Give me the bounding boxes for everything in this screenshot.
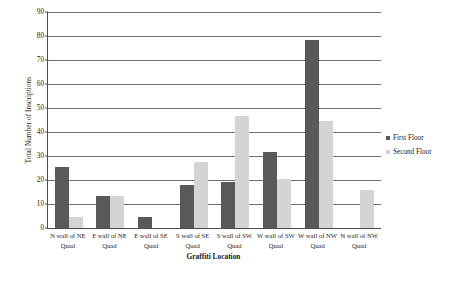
x-axis-tick-label: W wall of SWQuad bbox=[255, 231, 297, 250]
x-axis-title: Graffiti Location bbox=[47, 252, 380, 261]
bars-layer bbox=[48, 12, 381, 228]
y-axis-title: Total Number of Inscriptions bbox=[22, 12, 36, 228]
legend-item[interactable]: Second Floor bbox=[386, 145, 448, 159]
bar-group bbox=[90, 12, 132, 228]
legend-label: First Floor bbox=[393, 134, 424, 142]
x-axis-tick-label: N wall of NWQuad bbox=[338, 231, 380, 250]
x-axis-tick-label: N wall of NEQuad bbox=[47, 231, 89, 250]
bar-group bbox=[48, 12, 90, 228]
plot-area: 0102030405060708090 bbox=[47, 12, 381, 229]
bar[interactable] bbox=[55, 167, 69, 228]
bar-group bbox=[339, 12, 381, 228]
y-axis-tick-label: 70 bbox=[37, 56, 44, 64]
bar[interactable] bbox=[110, 196, 124, 228]
bar[interactable] bbox=[277, 179, 291, 228]
y-axis-tick-label: 50 bbox=[37, 104, 44, 112]
y-axis-tick-label: 10 bbox=[37, 200, 44, 208]
bar[interactable] bbox=[319, 121, 333, 228]
x-axis-tick-labels: N wall of NEQuadE wall of NEQuadE wall o… bbox=[47, 231, 380, 250]
y-axis-tick-label: 0 bbox=[40, 224, 44, 232]
bar[interactable] bbox=[221, 182, 235, 228]
bar[interactable] bbox=[96, 196, 110, 228]
x-axis-tick-label: S wall of SWQuad bbox=[214, 231, 256, 250]
bar[interactable] bbox=[69, 217, 83, 228]
x-axis-tick-label: E wall of NEQuad bbox=[89, 231, 131, 250]
bar[interactable] bbox=[263, 152, 277, 228]
bar[interactable] bbox=[138, 217, 152, 228]
legend-item[interactable]: First Floor bbox=[386, 131, 448, 145]
bar-chart: Total Number of Inscriptions 01020304050… bbox=[0, 0, 450, 286]
bar-group bbox=[131, 12, 173, 228]
bar[interactable] bbox=[360, 190, 374, 228]
bar-group bbox=[215, 12, 257, 228]
y-axis-tick-label: 60 bbox=[37, 80, 44, 88]
bar[interactable] bbox=[180, 185, 194, 228]
bar[interactable] bbox=[194, 162, 208, 228]
x-axis-tick-label: E wall of SEQuad bbox=[130, 231, 172, 250]
bar-group bbox=[173, 12, 215, 228]
y-axis-tick-label: 40 bbox=[37, 128, 44, 136]
legend-swatch-icon bbox=[386, 150, 390, 154]
bar-group bbox=[298, 12, 340, 228]
legend-swatch-icon bbox=[386, 136, 390, 140]
legend-label: Second Floor bbox=[393, 148, 432, 156]
y-axis-tick-label: 20 bbox=[37, 176, 44, 184]
y-axis-tick-label: 80 bbox=[37, 32, 44, 40]
x-axis-tick-label: S wall of SEQuad bbox=[172, 231, 214, 250]
bar[interactable] bbox=[235, 116, 249, 228]
bar-group bbox=[256, 12, 298, 228]
x-axis-tick-label: W wall of NWQuad bbox=[297, 231, 339, 250]
y-axis-tick-label: 90 bbox=[37, 8, 44, 16]
bar[interactable] bbox=[305, 40, 319, 228]
y-axis-tick-label: 30 bbox=[37, 152, 44, 160]
chart-legend: First FloorSecond Floor bbox=[386, 131, 448, 159]
